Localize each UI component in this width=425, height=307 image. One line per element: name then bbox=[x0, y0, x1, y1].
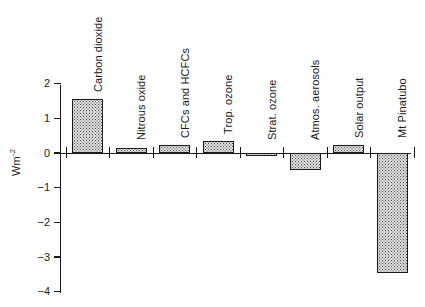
radiative-forcing-bar-chart: Wm-2 210−1−2−3−4 Carbon dioxideNitrous o… bbox=[0, 0, 425, 307]
category-label: Nitrous oxide bbox=[136, 75, 147, 141]
x-tick-mark bbox=[370, 147, 371, 158]
x-tick-mark bbox=[283, 147, 284, 158]
x-tick-mark bbox=[153, 147, 154, 158]
x-tick-mark bbox=[240, 147, 241, 158]
y-tick-mark bbox=[54, 118, 61, 119]
y-tick-mark bbox=[54, 291, 61, 292]
bar bbox=[333, 145, 364, 153]
bar bbox=[72, 99, 103, 153]
category-label: Mt Pinatubo bbox=[397, 78, 408, 138]
x-tick-mark bbox=[196, 147, 197, 158]
y-tick-label: −1 bbox=[24, 182, 50, 193]
x-tick-mark bbox=[414, 147, 415, 158]
y-tick-label: −2 bbox=[24, 217, 50, 228]
y-axis-label-text: Wm bbox=[10, 156, 22, 176]
y-axis-label-exponent: -2 bbox=[8, 149, 17, 156]
y-tick-label: 0 bbox=[24, 148, 50, 159]
bar bbox=[377, 153, 408, 273]
y-axis-line bbox=[60, 85, 61, 293]
y-tick-label: 1 bbox=[24, 113, 50, 124]
y-tick-mark bbox=[54, 152, 61, 153]
y-axis-label: Wm-2 bbox=[8, 106, 22, 176]
y-tick-mark bbox=[54, 222, 61, 223]
category-label: Trop. ozone bbox=[223, 75, 234, 134]
y-tick-label: −4 bbox=[24, 286, 50, 297]
bar bbox=[203, 141, 234, 153]
y-tick-mark bbox=[54, 256, 61, 257]
y-tick-label: 2 bbox=[24, 78, 50, 89]
bar bbox=[290, 153, 321, 170]
category-label: Carbon dioxide bbox=[93, 17, 104, 92]
category-label: Solar output bbox=[354, 77, 365, 138]
y-tick-mark bbox=[54, 187, 61, 188]
y-tick-mark bbox=[54, 83, 61, 84]
category-label: Strat. ozone bbox=[267, 79, 278, 140]
x-tick-mark bbox=[327, 147, 328, 158]
y-tick-label: −3 bbox=[24, 252, 50, 263]
category-label: Atmos. aerosols bbox=[310, 60, 321, 140]
bar bbox=[159, 145, 190, 153]
bar bbox=[116, 148, 147, 153]
category-label: CFCs and HCFCs bbox=[180, 48, 191, 138]
bar bbox=[246, 153, 277, 156]
x-tick-mark bbox=[66, 147, 67, 158]
x-tick-mark bbox=[109, 147, 110, 158]
